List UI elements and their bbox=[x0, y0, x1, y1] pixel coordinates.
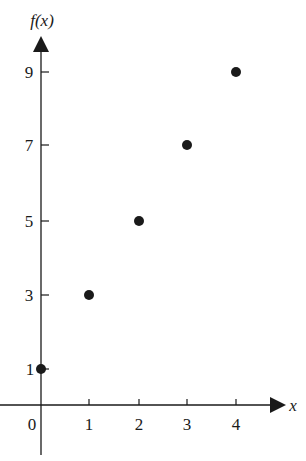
x-axis-label: x bbox=[288, 396, 297, 415]
data-point bbox=[84, 290, 94, 300]
x-axis-arrow-icon bbox=[270, 397, 286, 413]
x-tick-label: 1 bbox=[85, 415, 94, 434]
y-tick-label: 5 bbox=[25, 212, 34, 231]
x-ticks bbox=[89, 399, 236, 405]
y-tick-label: 9 bbox=[25, 63, 34, 82]
y-tick-label: 1 bbox=[26, 360, 35, 379]
data-point bbox=[231, 67, 241, 77]
y-ticks bbox=[41, 72, 49, 369]
x-tick-label: 0 bbox=[28, 415, 37, 434]
data-point bbox=[134, 216, 144, 226]
y-axis-arrow-icon bbox=[33, 36, 49, 52]
y-tick-label: 7 bbox=[25, 136, 34, 155]
y-tick-label: 3 bbox=[25, 286, 34, 305]
y-axis-label: f(x) bbox=[30, 11, 54, 30]
scatter-chart: 9 7 5 3 1 0 1 2 3 4 f(x) x bbox=[0, 0, 306, 461]
x-tick-label: 2 bbox=[135, 415, 144, 434]
data-point bbox=[182, 140, 192, 150]
data-points bbox=[36, 67, 241, 374]
x-tick-label: 4 bbox=[232, 415, 241, 434]
x-tick-label: 3 bbox=[183, 415, 192, 434]
data-point bbox=[36, 364, 46, 374]
